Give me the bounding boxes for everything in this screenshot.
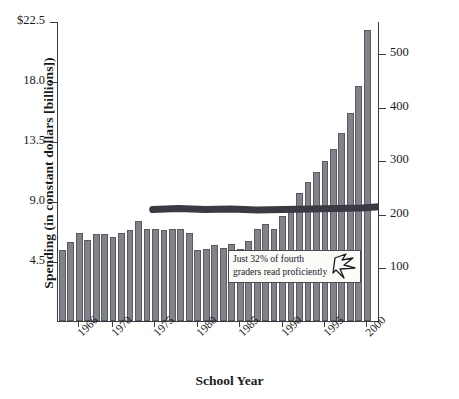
cursor-arrow-icon [331,252,359,281]
bar [67,242,74,321]
bar [194,250,201,321]
bar [355,86,362,321]
y-axis-right-tick [379,54,386,55]
bar [322,161,329,321]
y-axis-right-tick-label: 400 [390,99,409,114]
y-axis-right-tick [379,268,386,269]
y-axis-right-tick-label: 300 [390,152,409,167]
y-axis-left-tick-label: 13.5 [23,133,45,148]
y-axis-left-tick [50,202,57,203]
bar [127,230,134,321]
y-axis-right-tick [379,108,386,109]
y-axis-left-tick [50,22,57,23]
bar [338,133,345,321]
bar [347,113,354,321]
bar [59,250,66,321]
chart-figure: Spending (in constant dollars [billions]… [0,0,459,399]
y-axis-left-tick [50,262,57,263]
page-caption-strip [0,392,459,399]
callout-line-2: graders read proficiently [233,266,336,279]
bar [220,248,227,321]
bar [135,221,142,321]
y-axis-right-tick-label: 500 [390,45,409,60]
bar [313,172,320,321]
y-axis-left-tick [50,142,57,143]
bar [152,229,159,321]
bar [93,234,100,321]
bar [186,233,193,321]
x-axis-title: School Year [0,373,459,389]
y-axis-left-tick [50,82,57,83]
bar [101,234,108,321]
bar [364,30,371,321]
y-axis-left-tick-label: 9.0 [29,193,45,208]
y-axis-right-tick-label: 100 [390,259,409,274]
callout-line-1: Just 32% of fourth [233,253,336,266]
bar [203,249,210,321]
bar [330,149,337,321]
bar [76,233,83,321]
bar [161,230,168,321]
bar [84,240,91,321]
bar [169,229,176,321]
bar [144,229,151,321]
y-axis-right-tick [379,215,386,216]
bar [110,237,117,321]
bar [177,229,184,321]
y-axis-left-tick-label: 18.0 [23,73,45,88]
y-axis-left-title: Spending (in constant dollars [billions]… [41,28,57,318]
bar [118,233,125,321]
y-axis-left-tick-label: 4.5 [29,253,45,268]
proficiency-callout: Just 32% of fourth graders read proficie… [228,250,361,283]
y-axis-right-tick [379,161,386,162]
bar [211,245,218,321]
y-axis-left-tick-label: $22.5 [17,13,45,28]
y-axis-right-tick-label: 200 [390,206,409,221]
